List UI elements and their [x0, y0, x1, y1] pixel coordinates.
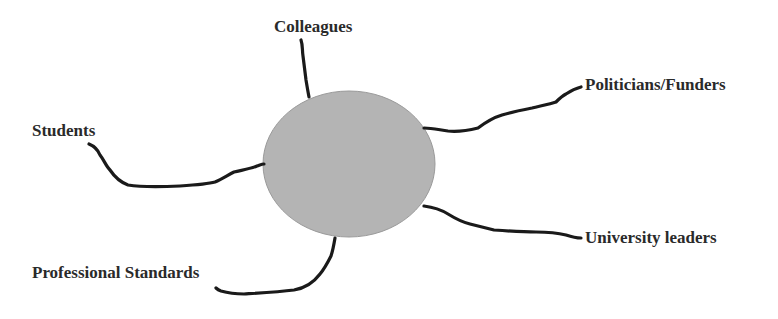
node-label-professional-standards: Professional Standards: [32, 263, 199, 283]
node-label-colleagues: Colleagues: [274, 17, 352, 37]
central-hub-ellipse: [263, 91, 435, 237]
node-label-politicians-funders: Politicians/Funders: [585, 75, 726, 95]
node-label-students: Students: [32, 121, 95, 141]
connector-students: [89, 144, 264, 187]
connector-university-leaders: [424, 206, 581, 238]
connector-professional-standards: [216, 238, 335, 294]
node-label-university-leaders: University leaders: [585, 228, 717, 248]
stakeholder-diagram: Colleagues Politicians/Funders Students …: [0, 0, 778, 319]
connector-politicians-funders: [424, 87, 581, 131]
connector-colleagues: [301, 40, 309, 97]
